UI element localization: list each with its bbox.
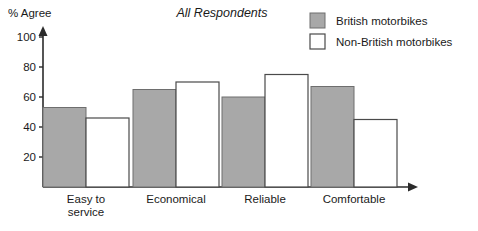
x-axis-label-0: Easy to <box>67 193 105 205</box>
bar-non-british-0 <box>86 118 129 187</box>
x-axis-arrow-icon <box>408 183 418 192</box>
legend-label-british: British motorbikes <box>336 15 428 27</box>
y-axis-title: % Agree <box>8 7 51 19</box>
x-axis-label-0: service <box>68 206 104 218</box>
legend-swatch-british <box>310 13 325 28</box>
bar-non-british-2 <box>265 75 308 188</box>
y-tick-label: 80 <box>23 61 36 73</box>
chart-title: All Respondents <box>175 6 267 20</box>
y-axis-ticks: 20406080100 <box>17 31 43 163</box>
y-tick-label: 40 <box>23 121 36 133</box>
x-axis-label-1: Economical <box>146 193 205 205</box>
legend-label-non-british: Non-British motorbikes <box>336 36 453 48</box>
bar-british-1 <box>133 90 176 188</box>
bar-non-british-1 <box>176 82 219 187</box>
legend-swatch-non-british <box>310 34 325 49</box>
bar-british-3 <box>311 87 354 188</box>
bar-british-2 <box>222 97 265 187</box>
bar-chart-figure: % Agree All Respondents 20406080100 Easy… <box>0 0 478 231</box>
x-axis-label-2: Reliable <box>244 193 286 205</box>
bar-british-0 <box>43 108 86 188</box>
bar-non-british-3 <box>354 120 397 188</box>
y-tick-label: 20 <box>23 151 36 163</box>
y-tick-label: 60 <box>23 91 36 103</box>
x-axis-label-3: Comfortable <box>323 193 386 205</box>
chart-canvas: % Agree All Respondents 20406080100 Easy… <box>0 0 478 231</box>
x-axis-labels: Easy toserviceEconomicalReliableComforta… <box>67 193 386 218</box>
y-tick-label: 100 <box>17 31 36 43</box>
chart-legend: British motorbikesNon-British motorbikes <box>310 13 453 49</box>
bars-group <box>43 75 397 188</box>
y-axis-arrow-icon <box>39 26 48 36</box>
